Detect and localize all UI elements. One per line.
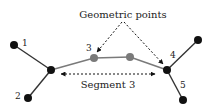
network-segment-diagram: Geometric points Segment 3 1 2 3 4 5	[0, 0, 215, 112]
label-node-4: 4	[170, 50, 176, 60]
label-segment-3: Segment 3	[81, 79, 136, 90]
node-5-end	[179, 96, 187, 104]
label-geometric-points: Geometric points	[79, 9, 166, 20]
nodes	[10, 36, 202, 104]
arrow-to-point-3	[97, 22, 122, 52]
node-2	[24, 94, 32, 102]
junction-left	[47, 66, 55, 74]
labels: Geometric points Segment 3 1 2 3 4 5	[15, 9, 186, 101]
segment-3-part-a	[51, 58, 94, 70]
label-node-1: 1	[22, 38, 28, 48]
edge-1-junction-left	[14, 45, 51, 70]
geometric-point-2	[126, 53, 134, 61]
edge-2-junction-left	[28, 70, 51, 98]
segment-3-part-c	[130, 57, 167, 70]
node-4-end	[194, 36, 202, 44]
label-node-2: 2	[15, 91, 21, 101]
segment-3-part-b	[94, 57, 130, 58]
junction-right	[163, 66, 171, 74]
annotation-arrows	[61, 22, 163, 74]
node-1	[10, 41, 18, 49]
label-node-3: 3	[86, 43, 92, 53]
label-node-5: 5	[180, 80, 186, 90]
geometric-point-1	[90, 54, 98, 62]
